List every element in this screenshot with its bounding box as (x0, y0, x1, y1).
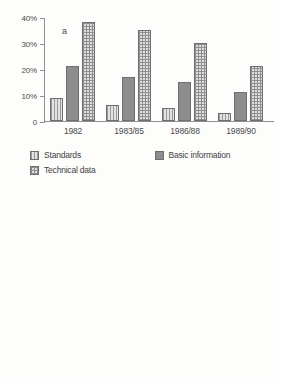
bar (122, 77, 135, 121)
x-tick-label: 1982 (45, 126, 101, 136)
legend-item: Standards (30, 150, 151, 160)
bar-group (212, 18, 268, 121)
y-tick-a-4 (40, 122, 45, 123)
bar (178, 82, 191, 121)
x-axis-a (44, 121, 274, 122)
legend-label: Basic information (169, 150, 231, 160)
legend-label: Standards (44, 150, 81, 160)
bar-group (157, 18, 213, 121)
y-tick-label-a-1: 30% (22, 40, 37, 49)
legend-a: StandardsBasic informationTechnical data (30, 150, 275, 175)
y-tick-label-a-2: 20% (22, 66, 37, 75)
vertical-lines-swatch (30, 151, 39, 160)
bar (138, 30, 151, 121)
x-tick-label: 1983/85 (101, 126, 157, 136)
y-tick-label-a-4: 0 (33, 118, 37, 127)
x-tick-label: 1986/88 (157, 126, 213, 136)
bar-group (101, 18, 157, 121)
checker-swatch (30, 166, 39, 175)
legend-item: Technical data (30, 165, 151, 175)
legend-item: Basic information (155, 150, 276, 160)
bar (234, 92, 247, 121)
bar (194, 43, 207, 121)
solid-gray-swatch (155, 151, 164, 160)
bar (66, 66, 79, 121)
x-tick-labels-a: 19821983/851986/881989/90 (45, 126, 269, 136)
chart-panel-a: a 40%30%20%10%0 19821983/851986/881989/9… (0, 0, 281, 190)
bar (218, 113, 231, 121)
chart-panel-b: b 40%40%20%10%0 19821983/851986/881989/9… (0, 190, 281, 383)
bar (82, 22, 95, 121)
bar (50, 98, 63, 121)
legend-label: Technical data (44, 165, 96, 175)
y-tick-label-a-3: 10% (22, 92, 37, 101)
bar (162, 108, 175, 121)
y-tick-label-a-0: 40% (22, 14, 37, 23)
bar (250, 66, 263, 121)
bar-group (45, 18, 101, 121)
bar (106, 105, 119, 121)
plot-area-a: 40%30%20%10%0 (44, 18, 268, 122)
bar-groups-a (45, 18, 268, 121)
x-tick-label: 1989/90 (213, 126, 269, 136)
